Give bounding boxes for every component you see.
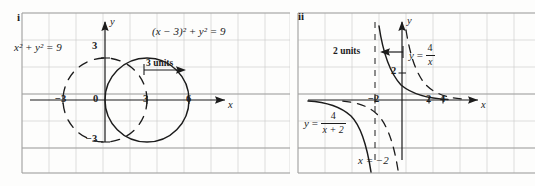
equation-original-ii: y = 4 x bbox=[409, 44, 435, 68]
panel-ii: ii 2 units y = 4 x y = 4 x + 2 x = −2 −2… bbox=[290, 0, 535, 186]
x-axis-arrow-ii bbox=[468, 96, 478, 104]
y-tick-ii-two: 2 bbox=[391, 66, 396, 77]
x-axis-arrow-i bbox=[215, 96, 225, 104]
equation-translated-ii-lhs: y bbox=[304, 117, 309, 129]
equation-original-ii-eq: = bbox=[417, 49, 423, 61]
asymptote-label-ii: x = −2 bbox=[358, 155, 389, 166]
shift-annotation-ii: 2 units bbox=[333, 47, 360, 57]
equation-translated-ii: y = 4 x + 2 bbox=[304, 112, 346, 136]
y-tick-i-minus3: −3 bbox=[86, 134, 97, 145]
x-tick-i-six: 6 bbox=[186, 94, 191, 105]
equation-original-i-text: x² + y² = 9 bbox=[14, 41, 62, 53]
equation-translated-ii-eq: = bbox=[312, 117, 318, 129]
plot-panel-ii bbox=[290, 0, 535, 186]
equation-translated-i-text: (x − 3)² + y² = 9 bbox=[152, 25, 225, 37]
equation-translated-i: (x − 3)² + y² = 9 bbox=[152, 26, 225, 37]
figure-canvas: i x² + y² = 9 (x − 3)² + y² = 9 3 units … bbox=[0, 0, 535, 186]
x-tick-ii-two: 2 bbox=[426, 94, 431, 105]
x-tick-i-minus3: −3 bbox=[55, 94, 66, 105]
shift-annotation-i: 3 units bbox=[146, 59, 173, 69]
equation-original-ii-denominator: x bbox=[426, 57, 435, 68]
x-axis-label-i: x bbox=[228, 100, 233, 111]
equation-original-ii-fraction: 4 x bbox=[426, 43, 435, 67]
x-axis-label-ii: x bbox=[481, 100, 486, 111]
equation-original-ii-lhs: y bbox=[409, 49, 414, 61]
equation-translated-ii-fraction: 4 x + 2 bbox=[321, 111, 346, 135]
x-tick-i-three: 3 bbox=[143, 94, 148, 105]
x-tick-i-zero: 0 bbox=[93, 94, 98, 105]
panel-label-i: i bbox=[17, 12, 20, 23]
panel-label-ii: ii bbox=[298, 11, 304, 22]
y-axis-arrow-i bbox=[101, 21, 108, 31]
equation-translated-ii-denominator: x + 2 bbox=[321, 125, 346, 136]
x-tick-ii-four: 4 bbox=[440, 94, 445, 105]
equation-original-i: x² + y² = 9 bbox=[14, 42, 62, 53]
y-axis-arrow-ii bbox=[398, 21, 405, 31]
y-axis-label-ii: y bbox=[407, 16, 412, 27]
y-axis-label-i: y bbox=[110, 17, 115, 28]
panel-i: i x² + y² = 9 (x − 3)² + y² = 9 3 units … bbox=[0, 0, 290, 186]
y-tick-i-three: 3 bbox=[92, 41, 97, 52]
x-tick-ii-minus2: −2 bbox=[368, 94, 379, 105]
equation-translated-ii-numerator: 4 bbox=[321, 111, 346, 122]
equation-original-ii-numerator: 4 bbox=[426, 43, 435, 54]
